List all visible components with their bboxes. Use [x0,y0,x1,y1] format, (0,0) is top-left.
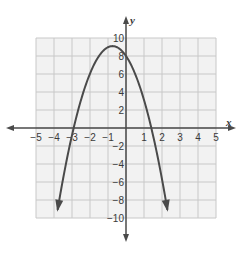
y-tick-label: −6 [113,177,125,188]
x-tick-label: 3 [177,132,183,143]
y-tick-label: −4 [113,159,125,170]
x-tick-label: −2 [84,132,96,143]
parabola-graph: −5−4−3−2−112345108642−2−4−6−8−10 x y [0,0,247,255]
y-tick-label: 10 [113,33,125,44]
x-tick-label: −5 [30,132,42,143]
x-axis-label: x [225,116,232,128]
y-axis-up-arrow-icon [123,16,129,24]
y-axis-down-arrow-icon [123,234,129,242]
x-tick-label: −4 [48,132,60,143]
x-tick-label: 2 [159,132,165,143]
x-tick-label: 4 [195,132,201,143]
y-tick-label: 2 [118,105,124,116]
x-axis-left-arrow-icon [6,125,14,131]
y-axis-label: y [128,14,135,26]
y-tick-label: −10 [107,213,124,224]
y-tick-label: −8 [113,195,125,206]
y-tick-label: 6 [118,69,124,80]
y-tick-label: −2 [113,141,125,152]
x-tick-label: 5 [213,132,219,143]
y-tick-label: 4 [118,87,124,98]
x-tick-label: 1 [141,132,147,143]
